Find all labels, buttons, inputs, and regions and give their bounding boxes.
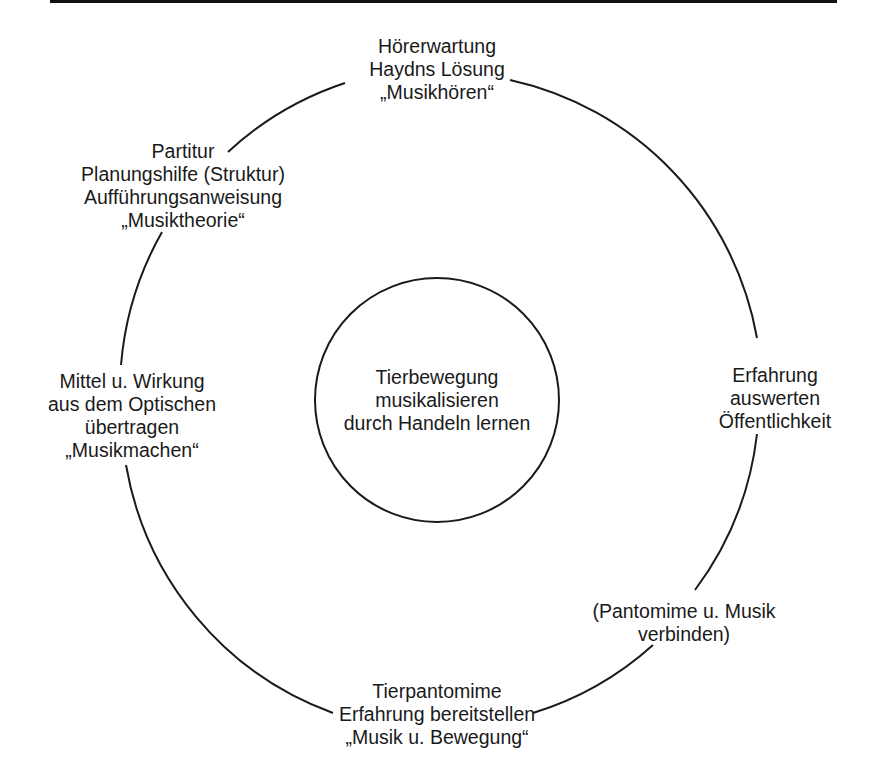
node-top-line: „Musikhören“ — [369, 81, 505, 104]
arc-lower-right-to-bottom — [533, 645, 653, 713]
arc-left-to-upper-left — [121, 232, 162, 365]
node-lower-right: (Pantomime u. Musik verbinden) — [592, 600, 775, 646]
node-lower-right-line: (Pantomime u. Musik — [592, 600, 775, 623]
node-left-line: „Musikmachen“ — [48, 439, 216, 462]
center-node-line: Tierbewegung — [344, 366, 530, 389]
node-upper-left-line: Planungshilfe (Struktur) — [81, 163, 285, 186]
node-upper-left: Partitur Planungshilfe (Struktur) Auffüh… — [81, 140, 285, 232]
center-node: Tierbewegung musikalisieren durch Handel… — [344, 366, 530, 435]
node-right-line: auswerten — [719, 387, 831, 410]
node-left-line: aus dem Optischen — [48, 393, 216, 416]
node-bottom-line: Erfahrung bereitstellen — [339, 703, 535, 726]
node-left: Mittel u. Wirkung aus dem Optischen über… — [48, 370, 216, 462]
node-upper-left-line: „Musiktheorie“ — [81, 209, 285, 232]
node-upper-left-line: Aufführungsanweisung — [81, 186, 285, 209]
node-lower-right-line: verbinden) — [592, 623, 775, 646]
node-bottom-line: „Musik u. Bewegung“ — [339, 726, 535, 749]
node-top-line: Haydns Lösung — [369, 58, 505, 81]
node-bottom-line: Tierpantomime — [339, 680, 535, 703]
node-right: Erfahrung auswerten Öffentlichkeit — [719, 364, 831, 433]
node-top: Hörerwartung Haydns Lösung „Musikhören“ — [369, 35, 505, 104]
node-bottom: Tierpantomime Erfahrung bereitstellen „M… — [339, 680, 535, 749]
arc-right-to-lower-right — [695, 434, 757, 590]
node-right-line: Erfahrung — [719, 364, 831, 387]
node-top-line: Hörerwartung — [369, 35, 505, 58]
center-node-line: musikalisieren — [344, 389, 530, 412]
arc-bottom-to-left — [126, 465, 333, 713]
arc-top-to-right — [510, 80, 757, 338]
node-right-line: Öffentlichkeit — [719, 410, 831, 433]
node-upper-left-line: Partitur — [81, 140, 285, 163]
node-left-line: Mittel u. Wirkung — [48, 370, 216, 393]
center-node-line: durch Handeln lernen — [344, 412, 530, 435]
node-left-line: übertragen — [48, 416, 216, 439]
